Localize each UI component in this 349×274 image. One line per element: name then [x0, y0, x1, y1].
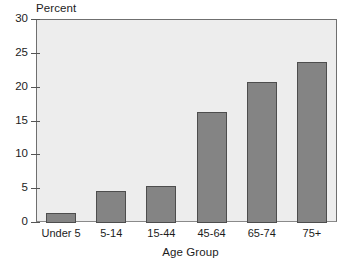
y-tick-label: 20: [2, 80, 28, 92]
x-axis-title: Age Group: [0, 246, 349, 258]
bar-chart-figure: Percent 051015202530 Under 55-1415-4445-…: [0, 0, 349, 274]
bar: [297, 62, 327, 223]
y-tick-label: 0: [2, 215, 28, 227]
y-tick-label: 15: [2, 114, 28, 126]
y-tick-mark: [31, 19, 40, 20]
x-tick-label: 75+: [272, 227, 349, 239]
y-tick-mark: [31, 53, 40, 54]
y-tick-label: 5: [2, 181, 28, 193]
y-tick-mark: [31, 121, 40, 122]
bar: [96, 191, 126, 223]
y-tick-mark: [31, 154, 40, 155]
paper-grain-overlay: [37, 20, 336, 221]
plot-area: [36, 19, 337, 222]
y-tick-mark: [31, 188, 40, 189]
x-axis-title-label: Age Group: [162, 246, 219, 258]
y-tick-mark: [31, 222, 40, 223]
y-tick-label: 30: [2, 12, 28, 24]
y-tick-label: 10: [2, 147, 28, 159]
bar: [197, 112, 227, 223]
bar: [247, 82, 277, 223]
bar: [46, 213, 76, 223]
y-tick-label: 25: [2, 46, 28, 58]
y-axis-title: Percent: [36, 2, 76, 14]
y-tick-mark: [31, 87, 40, 88]
bar: [146, 186, 176, 223]
